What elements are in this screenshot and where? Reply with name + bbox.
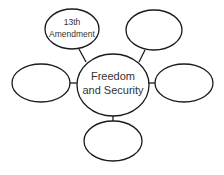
node-top-left: 13th Amendment <box>45 9 99 49</box>
connector-top-right <box>139 50 145 62</box>
node-left <box>12 64 70 102</box>
node-center: Freedom and Security <box>77 54 149 116</box>
center-label-line2: and Security <box>82 84 144 96</box>
node-top-left-line2: Amendment <box>49 29 95 39</box>
concept-web-diagram: 13th Amendment Freedom and Security <box>0 0 224 175</box>
node-bottom <box>84 121 142 161</box>
node-right <box>155 64 213 102</box>
node-top-right <box>126 10 182 50</box>
node-top-left-line1: 13th <box>64 17 81 27</box>
connector-top-left <box>79 49 86 62</box>
center-label-line1: Freedom <box>91 70 135 82</box>
